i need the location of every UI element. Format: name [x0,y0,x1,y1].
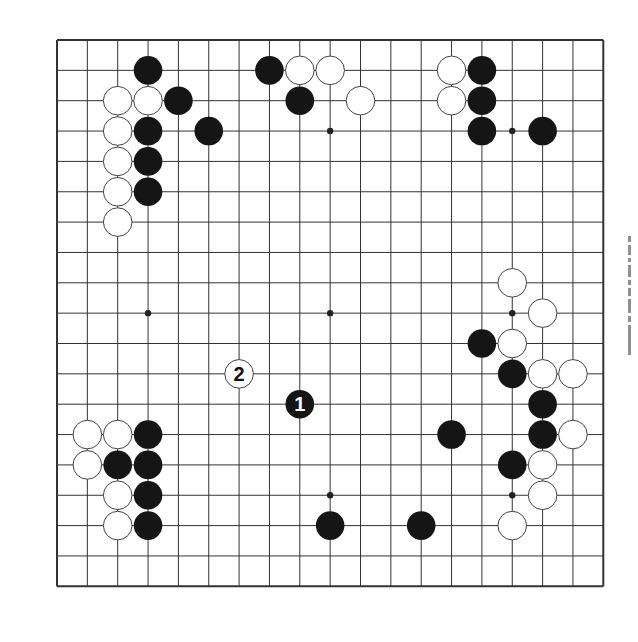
white-stone [73,420,102,449]
side-text-mark [628,316,631,322]
white-stone [103,481,132,510]
side-text-mark [628,236,631,242]
move-number-label: 1 [294,393,305,415]
black-stone [255,56,284,85]
side-text-mark [628,258,631,262]
black-stone [468,329,497,358]
star-point [509,128,515,134]
black-stone [164,86,193,115]
black-stone [134,147,163,176]
white-stone [103,147,132,176]
black-stone [286,86,315,115]
black-stone [194,117,223,146]
white-stone [559,360,588,389]
side-text-mark [628,245,631,255]
white-stone [134,86,163,115]
black-stone [134,117,163,146]
side-text-fragment [624,236,634,382]
black-stone [528,390,557,419]
white-stone [498,511,527,540]
white-stone [103,86,132,115]
star-point [327,492,333,498]
white-stone [528,299,557,328]
white-stone-move-2: 2 [225,360,254,389]
black-stone-move-1: 1 [286,390,315,419]
star-point [327,128,333,134]
white-stone [286,56,315,85]
star-point [509,492,515,498]
white-stone [103,177,132,206]
move-number-label: 2 [234,363,245,385]
side-text-mark [628,299,631,313]
white-stone [103,420,132,449]
star-point [145,310,151,316]
white-stone [437,56,466,85]
black-stone [528,420,557,449]
black-stone [134,451,163,480]
go-board: 12 [0,0,638,642]
white-stone [559,420,588,449]
go-board-diagram: 12 [0,0,638,642]
black-stone [103,451,132,480]
black-stone [407,511,436,540]
side-text-mark [628,325,631,355]
white-stone [346,86,375,115]
black-stone [468,86,497,115]
side-text-mark [628,288,631,296]
white-stone [437,86,466,115]
black-stone [134,420,163,449]
side-text-mark [628,280,631,285]
white-stone [528,360,557,389]
black-stone [134,511,163,540]
star-point [327,310,333,316]
black-stone [134,481,163,510]
black-stone [528,117,557,146]
white-stone [498,269,527,298]
black-stone [316,511,345,540]
black-stone [134,177,163,206]
black-stone [498,451,527,480]
star-point [509,310,515,316]
black-stone [468,117,497,146]
white-stone [103,117,132,146]
black-stone [134,56,163,85]
side-text-mark [628,265,631,277]
white-stone [103,511,132,540]
black-stone [468,56,497,85]
black-stone [498,360,527,389]
white-stone [498,329,527,358]
white-stone [316,56,345,85]
white-stone [103,208,132,237]
white-stone [528,451,557,480]
white-stone [528,481,557,510]
white-stone [73,451,102,480]
black-stone [437,420,466,449]
